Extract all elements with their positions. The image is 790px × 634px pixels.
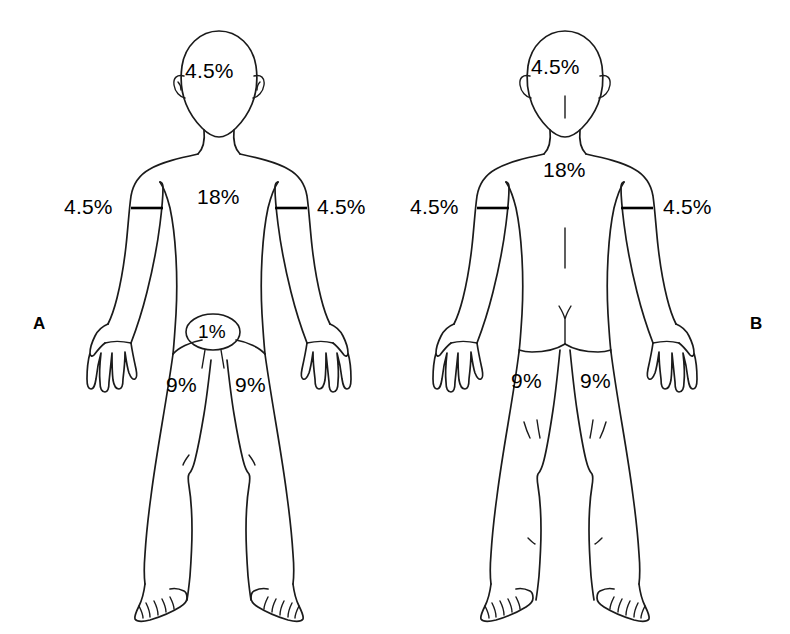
- posterior-gluteal-cleft: [559, 306, 571, 344]
- posterior-buttock-fold-left: [519, 344, 565, 352]
- anterior-head-percent-label: 4.5%: [185, 60, 234, 81]
- anterior-right-palm-line: [307, 342, 333, 344]
- anterior-neck-left: [198, 130, 204, 154]
- anterior-trunk-percent-label: 18%: [197, 186, 240, 207]
- posterior-right-ankle-mark: [595, 538, 602, 544]
- posterior-left-arm-inner: [477, 182, 509, 343]
- anterior-right-leg-inner: [227, 360, 251, 600]
- anterior-left-palm-line: [105, 342, 131, 344]
- posterior-buttock-fold-right: [565, 344, 611, 352]
- anterior-left-toes: [139, 597, 174, 618]
- panel-a-letter: A: [33, 315, 45, 332]
- anterior-right-arm-percent-label: 4.5%: [317, 196, 366, 217]
- anterior-right-arm-outer: [240, 154, 330, 324]
- anterior-right-hand: [301, 324, 351, 392]
- anterior-right-leg-outer: [265, 354, 294, 584]
- posterior-left-leg-percent-label: 9%: [511, 370, 542, 391]
- posterior-left-hand: [433, 324, 483, 392]
- anterior-left-knee-mark: [183, 455, 189, 465]
- panel-b-letter: B: [750, 315, 762, 332]
- body-figures-drawing: [0, 0, 790, 634]
- posterior-right-arm-outer: [586, 154, 676, 324]
- posterior-left-knee-crease: [524, 420, 540, 438]
- anterior-right-leg-percent-label: 9%: [235, 374, 266, 395]
- posterior-neck-left: [544, 130, 550, 154]
- posterior-head-percent-label: 4.5%: [531, 56, 580, 77]
- posterior-right-leg-outer: [611, 352, 640, 584]
- posterior-right-leg-percent-label: 9%: [580, 370, 611, 391]
- posterior-left-ankle-mark: [528, 538, 535, 544]
- posterior-left-heel-toes: [485, 597, 520, 618]
- posterior-left-arm-outer: [454, 154, 544, 324]
- anterior-right-knee-mark: [249, 455, 255, 465]
- posterior-right-knee-crease: [590, 420, 606, 438]
- posterior-right-heel-toes: [610, 597, 645, 618]
- anterior-right-arm-inner: [275, 182, 307, 343]
- posterior-left-knuckle-line: [451, 342, 477, 344]
- posterior-left-arm-percent-label: 4.5%: [410, 196, 459, 217]
- anterior-genitalia-lines: [202, 350, 224, 368]
- posterior-right-arm-inner: [621, 182, 653, 343]
- anterior-left-arm-percent-label: 4.5%: [64, 196, 113, 217]
- posterior-trunk-percent-label: 18%: [543, 159, 586, 180]
- anterior-left-leg-inner: [187, 360, 211, 600]
- posterior-head-outline: [527, 31, 603, 137]
- anterior-left-arm-outer: [108, 154, 198, 324]
- anterior-neck-right: [234, 130, 240, 154]
- posterior-right-knuckle-line: [653, 342, 679, 344]
- anterior-groin-right: [236, 340, 265, 354]
- rule-of-nines-diagram: 4.5% 18% 4.5% 4.5% 1% 9% 9% A 4.5% 18% 4…: [0, 0, 790, 634]
- anterior-left-hand: [87, 324, 137, 392]
- anterior-genitalia-percent-label: 1%: [198, 322, 226, 341]
- posterior-right-arm-percent-label: 4.5%: [663, 196, 712, 217]
- posterior-figure-outline: [433, 31, 697, 621]
- posterior-right-hand: [647, 324, 697, 392]
- anterior-left-leg-percent-label: 9%: [166, 374, 197, 395]
- anterior-left-arm-inner: [131, 182, 163, 343]
- anterior-right-toes: [264, 597, 299, 618]
- anterior-head-outline: [181, 31, 257, 137]
- posterior-neck-right: [580, 130, 586, 154]
